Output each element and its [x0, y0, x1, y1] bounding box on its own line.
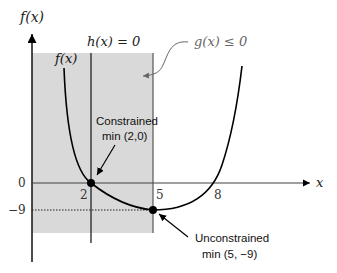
- x-tick-2: 2: [80, 188, 88, 202]
- x-axis-label: x: [316, 175, 324, 190]
- unconstrained-min-title: Unconstrained: [195, 232, 269, 244]
- h-constraint-label: h(x) = 0: [87, 34, 140, 49]
- optimization-diagram: f(x) x f(x) h(x) = 0 g(x) ≤ 0 2 5 8 0 −9…: [0, 0, 337, 273]
- unconstrained-min-point: [149, 206, 157, 214]
- constrained-min-point: [87, 179, 95, 187]
- constrained-min-title: Constrained: [96, 115, 158, 127]
- y-axis-label: f(x): [19, 9, 44, 25]
- x-tick-5: 5: [156, 188, 164, 202]
- curve-label: f(x): [54, 51, 77, 66]
- y-tick-minus-9: −9: [8, 203, 26, 217]
- unconstrained-min-arrow: [159, 214, 188, 237]
- y-tick-0: 0: [18, 176, 26, 190]
- unconstrained-min-value: min (5, −9): [202, 248, 257, 260]
- constrained-min-value: min (2,0): [102, 130, 148, 142]
- g-constraint-label: g(x) ≤ 0: [194, 34, 247, 49]
- x-tick-8: 8: [214, 188, 222, 202]
